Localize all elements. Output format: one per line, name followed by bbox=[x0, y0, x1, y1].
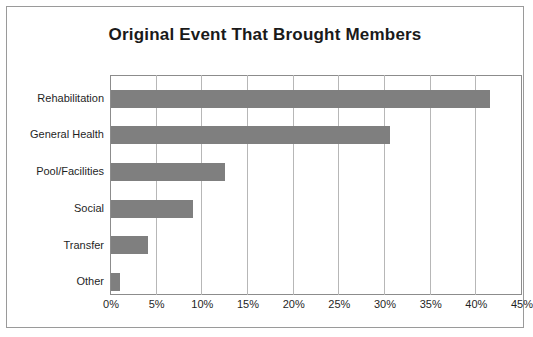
plot-area bbox=[110, 75, 522, 295]
gridline-5 bbox=[156, 75, 157, 295]
gridline-10 bbox=[201, 75, 202, 295]
x-axis-tick-labels: 0% 5% 10% 15% 20% 25% 30% 35% 40% 45% bbox=[110, 298, 522, 316]
x-axis-tick-9: 45% bbox=[511, 298, 533, 310]
y-axis-label-rehabilitation: Rehabilitation bbox=[37, 92, 104, 104]
gridline-15 bbox=[247, 75, 248, 295]
chart-title: Original Event That Brought Members bbox=[7, 25, 523, 45]
gridline-35 bbox=[430, 75, 431, 295]
gridline-40 bbox=[475, 75, 476, 295]
y-axis-category-labels: Rehabilitation General Health Pool/Facil… bbox=[7, 75, 104, 295]
x-axis-tick-6: 30% bbox=[374, 298, 396, 310]
gridline-30 bbox=[384, 75, 385, 295]
bar-row-general-health bbox=[110, 126, 522, 144]
gridline-20 bbox=[293, 75, 294, 295]
x-axis-tick-1: 5% bbox=[149, 298, 165, 310]
bar-row-transfer bbox=[110, 236, 522, 254]
bar-pool-facilities bbox=[111, 163, 225, 181]
x-axis-tick-2: 10% bbox=[191, 298, 213, 310]
plot-bottom-border bbox=[110, 294, 522, 295]
x-axis-tick-8: 40% bbox=[465, 298, 487, 310]
y-axis-line bbox=[110, 75, 111, 295]
bar-other bbox=[111, 273, 120, 291]
plot-top-border bbox=[110, 75, 522, 76]
bar-rehabilitation bbox=[111, 90, 490, 108]
y-axis-label-general-health: General Health bbox=[30, 128, 104, 140]
bar-row-pool-facilities bbox=[110, 163, 522, 181]
bar-row-social bbox=[110, 200, 522, 218]
y-axis-label-other: Other bbox=[76, 275, 104, 287]
bar-row-rehabilitation bbox=[110, 90, 522, 108]
bar-social bbox=[111, 200, 193, 218]
x-axis-tick-4: 20% bbox=[283, 298, 305, 310]
bar-row-other bbox=[110, 273, 522, 291]
plot-right-border bbox=[521, 75, 522, 295]
x-axis-tick-7: 35% bbox=[420, 298, 442, 310]
y-axis-label-pool-facilities: Pool/Facilities bbox=[36, 165, 104, 177]
y-axis-label-transfer: Transfer bbox=[63, 239, 104, 251]
bar-transfer bbox=[111, 236, 148, 254]
x-axis-tick-3: 15% bbox=[237, 298, 259, 310]
bar-general-health bbox=[111, 126, 390, 144]
x-axis-tick-0: 0% bbox=[103, 298, 119, 310]
gridline-25 bbox=[338, 75, 339, 295]
y-axis-label-social: Social bbox=[74, 202, 104, 214]
x-axis-tick-5: 25% bbox=[328, 298, 350, 310]
chart-frame: Original Event That Brought Members Reha… bbox=[6, 6, 524, 328]
